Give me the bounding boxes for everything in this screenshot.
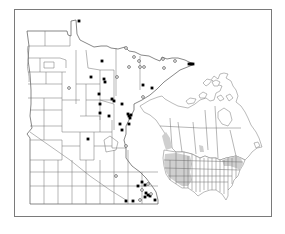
filled-record-dot — [144, 184, 147, 187]
open-record-dot — [174, 60, 177, 63]
filled-record-dot — [113, 100, 116, 103]
open-record-dot — [133, 56, 136, 59]
filled-record-dot — [101, 60, 104, 63]
filled-record-dot — [151, 87, 154, 90]
open-record-dot — [163, 67, 166, 70]
open-record-dot — [147, 183, 150, 186]
open-record-dot — [141, 189, 144, 192]
open-record-dot — [116, 76, 119, 79]
filled-record-dot — [99, 112, 102, 115]
open-record-dot — [68, 87, 71, 90]
filled-record-dot — [99, 103, 102, 106]
open-record-dot — [142, 96, 145, 99]
filled-record-dot — [103, 78, 106, 81]
filled-record-dot — [78, 20, 81, 23]
filled-record-dot — [141, 181, 144, 184]
open-record-dot — [128, 66, 131, 69]
filled-record-dot — [119, 123, 122, 126]
filled-record-dot — [121, 103, 124, 106]
open-record-dot — [143, 66, 146, 69]
filled-record-dot — [125, 200, 128, 203]
open-record-dot — [139, 199, 142, 202]
filled-record-dot — [108, 115, 111, 118]
open-record-dot — [125, 145, 128, 148]
open-record-dot — [139, 66, 142, 69]
open-record-dot — [125, 47, 128, 50]
filled-record-dot — [137, 185, 140, 188]
open-record-dot — [115, 175, 118, 178]
north-america-inset — [140, 73, 262, 200]
filled-record-dot — [104, 81, 107, 84]
distribution-map — [0, 0, 285, 234]
filled-record-dot — [192, 63, 195, 66]
filled-record-dot — [142, 84, 145, 87]
open-record-dot — [162, 58, 165, 61]
filled-record-dot — [154, 199, 157, 202]
filled-record-dot — [128, 123, 131, 126]
filled-record-dot — [121, 129, 124, 132]
filled-record-dot — [87, 138, 90, 141]
filled-record-dot — [132, 200, 135, 203]
filled-record-dot — [90, 76, 93, 79]
filled-record-dot — [144, 196, 147, 199]
filled-record-dot — [130, 114, 133, 117]
filled-record-dot — [129, 117, 132, 120]
filled-record-dot — [98, 93, 101, 96]
open-record-dot — [138, 60, 141, 63]
open-record-dot — [150, 193, 153, 196]
